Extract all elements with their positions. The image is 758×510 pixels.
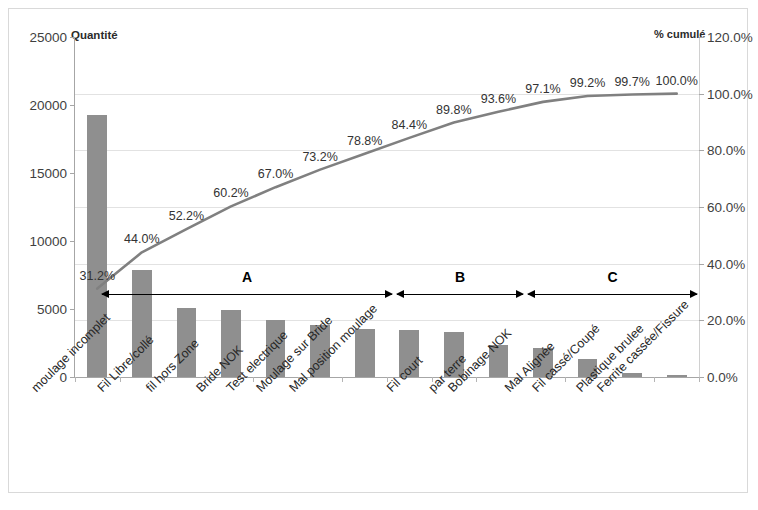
left-axis-tick-label: 25000 bbox=[9, 30, 67, 45]
right-axis-tick-label: 100.0% bbox=[707, 86, 758, 101]
cumulative-data-label: 44.0% bbox=[124, 232, 159, 246]
zone-arrow-line bbox=[102, 294, 392, 295]
category-axis-tick bbox=[699, 377, 700, 382]
right-axis-tick-label: 20.0% bbox=[707, 313, 758, 328]
zone-arrow-line bbox=[397, 294, 523, 295]
zone-label: B bbox=[455, 269, 465, 285]
right-axis-tick-label: 60.0% bbox=[707, 200, 758, 215]
right-axis-tick-label: 0.0% bbox=[707, 370, 758, 385]
zone-arrow-head-right bbox=[516, 290, 524, 298]
category-axis-tick bbox=[565, 377, 566, 382]
right-axis-tick bbox=[699, 207, 704, 208]
cumulative-data-label: 89.8% bbox=[436, 103, 471, 117]
cumulative-data-label: 97.1% bbox=[525, 82, 560, 96]
cumulative-data-label: 52.2% bbox=[169, 209, 204, 223]
right-axis-tick-label: 80.0% bbox=[707, 143, 758, 158]
zone-arrow-head-left bbox=[101, 290, 109, 298]
cumulative-data-label: 67.0% bbox=[258, 167, 293, 181]
zone-arrow-head-right bbox=[690, 290, 698, 298]
left-axis-tick-label: 15000 bbox=[9, 166, 67, 181]
category-axis-tick bbox=[476, 377, 477, 382]
left-axis-tick-label: 20000 bbox=[9, 98, 67, 113]
left-axis-tick-label: 10000 bbox=[9, 234, 67, 249]
zone-arrow-line bbox=[528, 294, 697, 295]
category-axis-tick bbox=[342, 377, 343, 382]
cumulative-data-label: 99.2% bbox=[570, 76, 605, 90]
zone-arrow-head-right bbox=[385, 290, 393, 298]
cumulative-data-label: 31.2% bbox=[80, 269, 115, 283]
right-axis-tick-label: 40.0% bbox=[707, 256, 758, 271]
zone-arrow-head-left bbox=[396, 290, 404, 298]
cumulative-data-label: 78.8% bbox=[347, 134, 382, 148]
cumulative-data-label: 60.2% bbox=[213, 186, 248, 200]
zone-label: A bbox=[242, 269, 252, 285]
cumulative-data-label: 93.6% bbox=[481, 92, 516, 106]
pareto-chart: Quantité % cumulé 0500010000150002000025… bbox=[8, 8, 748, 493]
zone-arrow-head-left bbox=[527, 290, 535, 298]
right-axis-tick bbox=[699, 150, 704, 151]
right-axis-tick bbox=[699, 320, 704, 321]
left-axis-tick-label: 5000 bbox=[9, 302, 67, 317]
cumulative-line-series bbox=[75, 37, 699, 377]
cumulative-data-label: 84.4% bbox=[392, 118, 427, 132]
zone-label: C bbox=[607, 269, 617, 285]
cumulative-data-label: 99.7% bbox=[614, 75, 649, 89]
category-axis-tick bbox=[654, 377, 655, 382]
right-axis-tick bbox=[699, 37, 704, 38]
right-axis-tick-label: 120.0% bbox=[707, 30, 758, 45]
right-axis-tick bbox=[699, 264, 704, 265]
right-axis-tick bbox=[699, 94, 704, 95]
cumulative-data-label: 100.0% bbox=[656, 74, 698, 88]
cumulative-data-label: 73.2% bbox=[302, 150, 337, 164]
plot-area: 31.2%44.0%52.2%60.2%67.0%73.2%78.8%84.4%… bbox=[75, 37, 699, 377]
category-axis-tick bbox=[253, 377, 254, 382]
category-axis-tick bbox=[75, 377, 76, 382]
